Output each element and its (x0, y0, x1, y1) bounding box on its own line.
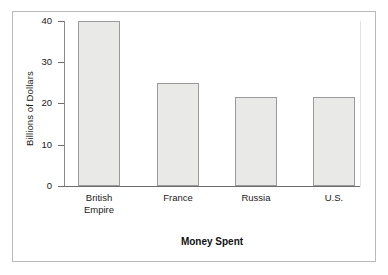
x-tick-label-us: U.S. (292, 192, 376, 204)
bar-us (313, 97, 355, 186)
x-tick-label-line1: France (136, 192, 220, 204)
bar-russia (235, 97, 277, 186)
x-axis-title: Money Spent (64, 236, 360, 247)
x-tick-label-russia: Russia (214, 192, 298, 204)
bar-british-empire (78, 21, 120, 186)
bar-series (0, 0, 388, 275)
x-tick-label-line1: Russia (214, 192, 298, 204)
x-tick-label-line1: British (57, 192, 141, 204)
x-tick-label-france: France (136, 192, 220, 204)
bar-chart: Billions of Dollars 40 30 20 10 0 Britis… (0, 0, 388, 275)
x-tick-label-british-empire: British Empire (57, 192, 141, 215)
bar-france (157, 83, 199, 186)
x-tick-label-line2: Empire (57, 204, 141, 216)
x-axis-tick-labels: British Empire France Russia U.S. (0, 192, 388, 232)
x-tick-label-line1: U.S. (292, 192, 376, 204)
